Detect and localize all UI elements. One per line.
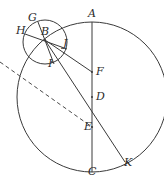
point-marker-B — [44, 39, 46, 41]
point-label-C: C — [88, 166, 96, 177]
point-label-G: G — [28, 12, 37, 23]
large-circle — [17, 22, 164, 172]
point-label-J: J — [63, 38, 67, 49]
point-label-A: A — [88, 8, 96, 19]
geometry-figure: G H A B J I F D E C K — [0, 0, 164, 180]
dashed-line-to-E — [0, 62, 92, 127]
point-label-F: F — [96, 66, 104, 77]
point-marker-F — [91, 71, 93, 73]
point-marker-D — [91, 96, 93, 98]
point-label-K: K — [124, 157, 132, 168]
segment-BK — [45, 40, 125, 162]
point-label-B: B — [41, 26, 49, 37]
point-label-E: E — [84, 121, 92, 132]
point-label-H: H — [16, 25, 26, 36]
point-label-D: D — [96, 91, 105, 102]
point-label-I: I — [48, 58, 52, 69]
